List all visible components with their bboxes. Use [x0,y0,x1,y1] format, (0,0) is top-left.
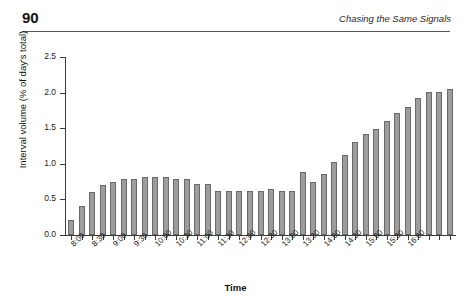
y-tick-label: 2.0 [26,87,56,97]
bar [142,177,148,235]
page-header: 90 Chasing the Same Signals [0,0,471,34]
y-tick-label: 0.5 [26,193,56,203]
bar [236,191,242,235]
bar [415,98,421,235]
bar [173,179,179,235]
bar-chart-figure: Interval volume (% of day's total) 0.00.… [0,36,471,305]
bar [184,179,190,235]
bar [152,177,158,235]
bar [405,107,411,235]
bar [447,89,453,235]
bar [89,192,95,235]
bar [163,177,169,235]
bar [352,142,358,235]
bar [384,121,390,235]
bar [110,182,116,235]
x-axis-title: Time [0,282,471,293]
bar [300,172,306,235]
y-axis-tick-labels: 0.00.51.01.52.02.5 [22,36,56,256]
y-tick-label: 0.0 [26,229,56,239]
bar [426,92,432,235]
bar [68,220,74,235]
bar [121,179,127,235]
bar [394,113,400,235]
bar [363,134,369,235]
bar [342,155,348,235]
bar [373,129,379,235]
x-tick-mark [450,236,451,240]
bar [215,191,221,235]
bar [131,179,137,235]
x-tick-mark [429,236,430,240]
y-tick-label: 1.5 [26,122,56,132]
header-divider [22,31,450,32]
bars-layer [66,57,455,235]
bar [194,184,200,235]
y-tick-label: 1.0 [26,158,56,168]
y-tick-label: 2.5 [26,51,56,61]
bar [331,162,337,235]
x-tick-mark [439,236,440,240]
bar [279,191,285,235]
bar [258,191,264,235]
bar [100,185,106,235]
bar [321,174,327,235]
running-head: Chasing the Same Signals [339,13,451,24]
bar [436,92,442,235]
